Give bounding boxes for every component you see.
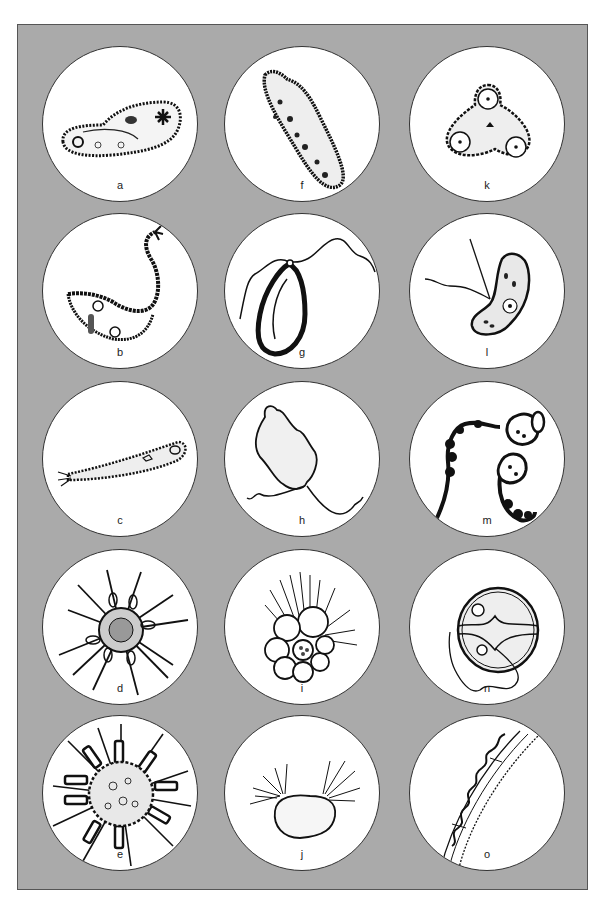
panel-label: e [43,848,197,860]
panel-i: i [224,549,380,705]
panel-label: f [225,179,379,191]
panel-label: l [410,346,564,358]
panel-k: k [409,46,565,202]
panel-label: b [43,346,197,358]
panel-label: a [43,179,197,191]
panel-f: f [224,46,380,202]
panel-b: b [42,213,198,369]
panel-j: j [224,715,380,871]
panel-label: o [410,848,564,860]
panel-label: g [225,346,379,358]
panel-e: e [42,715,198,871]
panel-d: d [42,549,198,705]
panel-label: n [410,682,564,694]
panel-o: o [409,715,565,871]
panel-n: n [409,549,565,705]
panel-label: d [43,682,197,694]
panel-l: l [409,213,565,369]
panel-c: c [42,381,198,537]
panel-label: c [43,514,197,526]
panel-label: m [410,514,564,526]
panel-label: i [225,682,379,694]
panel-label: k [410,179,564,191]
panel-label: h [225,514,379,526]
panel-label: j [225,848,379,860]
panel-g: g [224,213,380,369]
panel-m: m [409,381,565,537]
panel-h: h [224,381,380,537]
panel-a: a [42,46,198,202]
